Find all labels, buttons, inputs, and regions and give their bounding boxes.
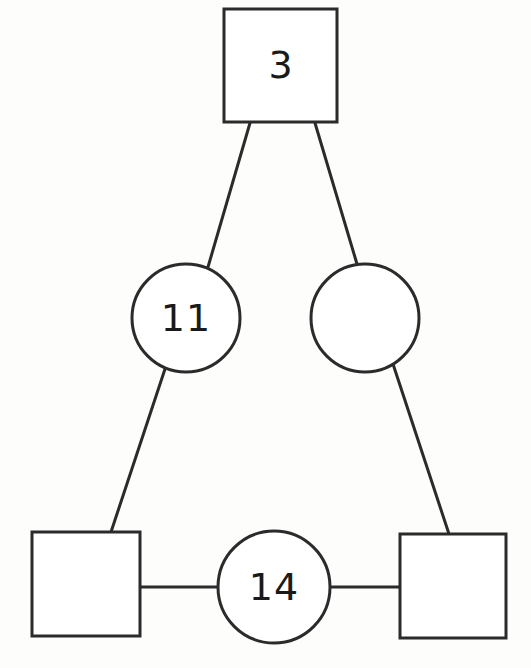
edge-top-square-to-right-circle [315, 123, 357, 264]
top-square-label: 3 [268, 43, 293, 87]
edge-right-circle-to-bottom-right-square [393, 364, 449, 534]
node-bottom-right-square[interactable] [400, 534, 506, 638]
node-top-square[interactable]: 3 [224, 9, 337, 122]
left-circle-label: 11 [161, 296, 211, 340]
bottom-center-circle-label: 14 [249, 565, 299, 609]
diagram-canvas: 3 11 14 [0, 0, 531, 668]
graph-diagram: 3 11 14 [0, 0, 531, 668]
node-bottom-center-circle[interactable]: 14 [218, 531, 330, 643]
bottom-left-square-shape[interactable] [32, 532, 140, 636]
edge-top-square-to-left-circle [208, 123, 250, 267]
edge-left-circle-to-bottom-left-square [111, 369, 165, 532]
node-bottom-left-square[interactable] [32, 532, 140, 636]
node-left-circle[interactable]: 11 [132, 264, 240, 372]
right-circle-shape[interactable] [311, 264, 419, 372]
bottom-right-square-shape[interactable] [400, 534, 506, 638]
node-right-circle[interactable] [311, 264, 419, 372]
